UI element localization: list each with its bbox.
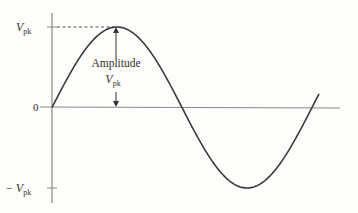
sine-wave-diagram: Vpk 0 − Vpk Amplitude Vpk <box>0 0 358 213</box>
diagram-canvas: Vpk 0 − Vpk Amplitude Vpk <box>0 0 358 213</box>
amplitude-label: Amplitude <box>91 57 140 70</box>
vpk-bottom-label: − Vpk <box>6 181 31 197</box>
vpk-top-label: Vpk <box>16 20 31 36</box>
zero-label: 0 <box>33 101 39 113</box>
horizontal-axis <box>40 107 340 108</box>
